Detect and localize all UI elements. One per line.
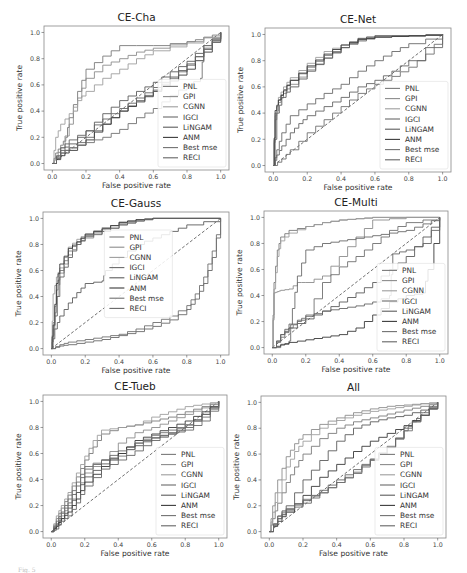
legend-label: PNL	[129, 233, 144, 242]
x-tick-label: 0.6	[365, 541, 375, 548]
figure-caption-partial: Fig. 5	[18, 566, 36, 573]
legend: PNLGPICGNNIGCILiNGAMANMBest mseRECI	[380, 81, 448, 169]
y-tick-label: 0.2	[30, 134, 40, 141]
x-tick-label: 0.0	[264, 541, 274, 548]
x-tick-label: 0.2	[80, 541, 90, 548]
x-tick-label: 0.4	[114, 358, 124, 365]
legend: PNLGPICGNNIGCILiNGAMANMBest mseRECI	[377, 263, 445, 351]
x-tick-label: 0.0	[267, 357, 277, 364]
legend-label: RECI	[129, 304, 146, 313]
legend-label: RECI	[181, 521, 198, 530]
y-tick-label: 0.2	[29, 319, 39, 326]
x-tick-label: 0.2	[302, 175, 312, 182]
roc-figure: CE-Cha0.00.20.40.60.81.00.00.20.40.60.81…	[0, 0, 467, 573]
x-tick-label: 0.0	[47, 173, 57, 180]
x-tick-label: 1.0	[438, 175, 448, 182]
legend-label: IGCI	[405, 115, 420, 124]
x-axis-label: False positive rate	[100, 549, 169, 558]
chart-title: CE-Gauss	[111, 197, 161, 209]
legend-label: Best mse	[402, 327, 437, 336]
y-tick-label: 1.0	[247, 399, 257, 406]
legend-label: CGNN	[181, 470, 203, 479]
x-tick-label: 1.0	[216, 358, 226, 365]
y-tick-label: 0.4	[251, 109, 261, 116]
x-tick-label: 0.4	[334, 357, 344, 364]
y-tick-label: 0.6	[29, 267, 39, 274]
x-tick-label: 0.8	[182, 358, 192, 365]
legend-label: RECI	[400, 521, 417, 530]
chart-title: CE-Multi	[334, 196, 377, 208]
y-tick-label: 0.6	[30, 81, 40, 88]
y-axis-label: True positive rate	[15, 65, 24, 132]
x-tick-label: 0.8	[182, 173, 192, 180]
x-tick-label: 1.0	[433, 541, 443, 548]
legend-label: CGNN	[402, 286, 424, 295]
legend-label: LiNGAM	[405, 125, 434, 134]
subplot-ce-gauss: CE-Gauss0.00.20.40.60.81.00.00.20.40.60.…	[14, 197, 229, 375]
legend: PNLGPICGNNIGCILiNGAMANMBest mseRECI	[375, 447, 443, 535]
x-tick-label: 0.6	[147, 541, 157, 548]
y-axis-label: True positive rate	[14, 433, 23, 500]
legend-label: RECI	[402, 337, 419, 346]
subplot-ce-cha: CE-Cha0.00.20.40.60.81.00.00.20.40.60.81…	[15, 11, 229, 190]
y-tick-label: 0.4	[250, 292, 260, 299]
x-tick-label: 0.8	[399, 541, 409, 548]
y-tick-label: 0.2	[250, 318, 260, 325]
y-tick-label: 1.0	[30, 29, 40, 36]
legend-label: ANM	[181, 501, 198, 510]
x-tick-label: 0.0	[268, 175, 278, 182]
legend-label: CGNN	[405, 104, 427, 113]
y-tick-label: 0.0	[29, 345, 39, 352]
legend: PNLGPICGNNIGCILiNGAMANMBest mseRECI	[158, 79, 226, 167]
x-tick-label: 1.0	[435, 357, 445, 364]
x-tick-label: 0.6	[370, 175, 380, 182]
y-tick-label: 1.0	[251, 31, 261, 38]
y-tick-label: 0.4	[247, 476, 257, 483]
chart-title: CE-Cha	[117, 11, 155, 23]
x-tick-label: 0.8	[401, 357, 411, 364]
y-tick-label: 0.8	[29, 424, 39, 431]
legend-label: LiNGAM	[402, 307, 431, 316]
x-axis-label: False positive rate	[319, 549, 388, 558]
legend-label: GPI	[402, 276, 414, 285]
x-axis-label: False positive rate	[101, 366, 170, 375]
x-tick-label: 0.8	[404, 175, 414, 182]
y-tick-label: 0.6	[250, 266, 260, 273]
x-tick-label: 0.2	[301, 357, 311, 364]
legend-label: Best mse	[181, 511, 216, 520]
legend-label: GPI	[181, 460, 193, 469]
legend-label: IGCI	[183, 113, 198, 122]
y-tick-label: 0.4	[29, 293, 39, 300]
x-tick-label: 0.4	[113, 541, 123, 548]
x-tick-label: 0.2	[81, 173, 91, 180]
legend-label: LiNGAM	[183, 123, 212, 132]
y-tick-label: 0.0	[30, 160, 40, 167]
legend-label: GPI	[405, 94, 417, 103]
x-tick-label: 1.0	[214, 541, 224, 548]
y-tick-label: 0.8	[30, 55, 40, 62]
x-axis-label: False positive rate	[321, 365, 390, 374]
y-tick-label: 0.2	[251, 136, 261, 143]
legend-label: IGCI	[402, 297, 417, 306]
y-tick-label: 0.2	[29, 502, 39, 509]
y-axis-label: True positive rate	[236, 67, 245, 134]
y-axis-label: True positive rate	[235, 249, 244, 316]
x-tick-label: 0.4	[336, 175, 346, 182]
legend-label: Best mse	[183, 143, 218, 152]
legend-label: Best mse	[129, 294, 164, 303]
x-tick-label: 0.8	[180, 541, 190, 548]
y-tick-label: 0.0	[247, 528, 257, 535]
x-tick-label: 0.6	[148, 173, 158, 180]
chart-title: CE-Net	[340, 13, 376, 25]
y-tick-label: 0.4	[29, 476, 39, 483]
y-tick-label: 1.0	[29, 398, 39, 405]
y-tick-label: 0.8	[251, 57, 261, 64]
x-tick-label: 0.6	[368, 357, 378, 364]
legend-label: Best mse	[400, 511, 435, 520]
x-tick-label: 0.6	[148, 358, 158, 365]
legend-label: ANM	[405, 135, 422, 144]
y-tick-label: 0.8	[29, 241, 39, 248]
legend-label: ANM	[402, 317, 419, 326]
y-tick-label: 0.4	[30, 107, 40, 114]
y-tick-label: 0.2	[247, 502, 257, 509]
